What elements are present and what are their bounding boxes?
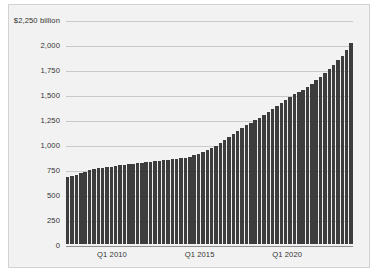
bar xyxy=(127,164,130,244)
bar xyxy=(219,143,222,244)
bar xyxy=(293,94,296,244)
bar xyxy=(306,87,309,245)
y-axis-tick-label: 0 xyxy=(0,242,60,250)
x-axis-tick-label: Q1 2015 xyxy=(185,251,215,259)
bar xyxy=(206,150,209,244)
bar xyxy=(223,140,226,244)
bar xyxy=(201,152,204,244)
y-axis-tick-label: 1,000 xyxy=(0,142,60,150)
bar xyxy=(323,73,326,244)
bar xyxy=(280,103,283,244)
bar xyxy=(275,106,278,244)
bar xyxy=(110,167,113,245)
y-axis-tick-label: 1,250 xyxy=(0,117,60,125)
bar xyxy=(258,118,261,245)
bar xyxy=(227,137,230,244)
bar xyxy=(267,112,270,244)
bar xyxy=(197,154,200,245)
bar xyxy=(75,175,78,245)
x-axis-line xyxy=(66,246,353,247)
bar xyxy=(341,56,344,245)
bar xyxy=(158,161,161,245)
bar xyxy=(171,159,174,244)
x-axis-tick-label: Q1 2010 xyxy=(97,251,127,259)
bar xyxy=(328,69,331,244)
bar xyxy=(253,120,256,244)
bar xyxy=(249,123,252,245)
bar xyxy=(301,90,304,245)
bar xyxy=(70,176,73,244)
bar xyxy=(66,177,69,244)
bar xyxy=(118,165,121,244)
chart-plot-area: $2,250 billion2,0001,7501,5001,2501,0007… xyxy=(9,5,369,267)
bar xyxy=(210,148,213,244)
bar xyxy=(236,131,239,244)
bar xyxy=(136,163,139,244)
bar xyxy=(144,162,147,244)
bar xyxy=(262,115,265,244)
bar xyxy=(214,146,217,245)
y-axis-tick-label: 250 xyxy=(0,217,60,225)
bar xyxy=(314,80,317,244)
x-axis-tick-label: Q1 2020 xyxy=(272,251,302,259)
bar xyxy=(101,168,104,245)
bar xyxy=(97,168,100,244)
bar xyxy=(114,166,117,244)
bar xyxy=(192,155,195,244)
bar xyxy=(105,167,108,244)
bar xyxy=(162,160,165,244)
bar xyxy=(131,164,134,245)
bar xyxy=(245,125,248,244)
chart-card: $2,250 billion2,0001,7501,5001,2501,0007… xyxy=(8,4,370,268)
bar xyxy=(188,157,191,245)
y-axis-tick-label: 500 xyxy=(0,192,60,200)
y-axis-tick-label: 2,000 xyxy=(0,42,60,50)
bar xyxy=(349,43,352,244)
bar xyxy=(92,169,95,245)
bar xyxy=(288,97,291,244)
bar xyxy=(149,162,152,245)
bar xyxy=(153,161,156,244)
bar xyxy=(319,77,322,245)
bar xyxy=(123,165,126,245)
bar xyxy=(166,160,169,245)
y-axis-tick-label: 750 xyxy=(0,167,60,175)
bar xyxy=(184,158,187,245)
bar xyxy=(140,163,143,245)
bar xyxy=(175,159,178,245)
bar xyxy=(336,60,339,244)
bar xyxy=(284,100,287,244)
bar xyxy=(240,128,243,244)
bar xyxy=(271,109,274,244)
bar-series xyxy=(66,21,353,244)
bar xyxy=(232,134,235,244)
bar xyxy=(79,173,82,244)
bar xyxy=(88,170,91,244)
y-axis-tick-label: $2,250 billion xyxy=(0,17,60,25)
bar xyxy=(345,50,348,245)
y-axis-tick-label: 1,750 xyxy=(0,67,60,75)
bar xyxy=(83,172,86,245)
bar xyxy=(332,65,335,245)
bar xyxy=(179,158,182,244)
bar xyxy=(310,84,313,245)
y-axis-tick-label: 1,500 xyxy=(0,92,60,100)
bar xyxy=(297,92,300,244)
